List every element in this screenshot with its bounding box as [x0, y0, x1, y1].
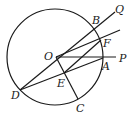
label-e: E: [56, 77, 65, 90]
label-p: P: [118, 52, 127, 65]
geometry-diagram: O B Q F A P D E C: [0, 0, 133, 116]
label-b: B: [91, 14, 100, 27]
label-a: A: [101, 60, 110, 73]
label-c: C: [76, 102, 85, 115]
label-f: F: [102, 37, 111, 50]
label-q: Q: [115, 3, 124, 16]
label-o: O: [44, 50, 53, 63]
label-d: D: [10, 89, 20, 102]
